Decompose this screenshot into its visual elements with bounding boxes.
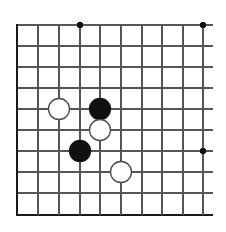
white-stone-1[interactable] <box>49 99 70 120</box>
white-stone-3[interactable] <box>111 162 132 183</box>
white-stone-2[interactable] <box>90 120 111 141</box>
star-point-top-right-icon <box>200 22 206 28</box>
board-background <box>0 0 226 232</box>
black-stone-1[interactable] <box>90 99 111 120</box>
go-board-canvas[interactable] <box>0 0 226 232</box>
go-board-figure <box>0 0 226 232</box>
star-point-right-icon <box>200 148 206 154</box>
black-stone-2[interactable] <box>70 141 91 162</box>
star-point-top-left-icon <box>77 22 83 28</box>
